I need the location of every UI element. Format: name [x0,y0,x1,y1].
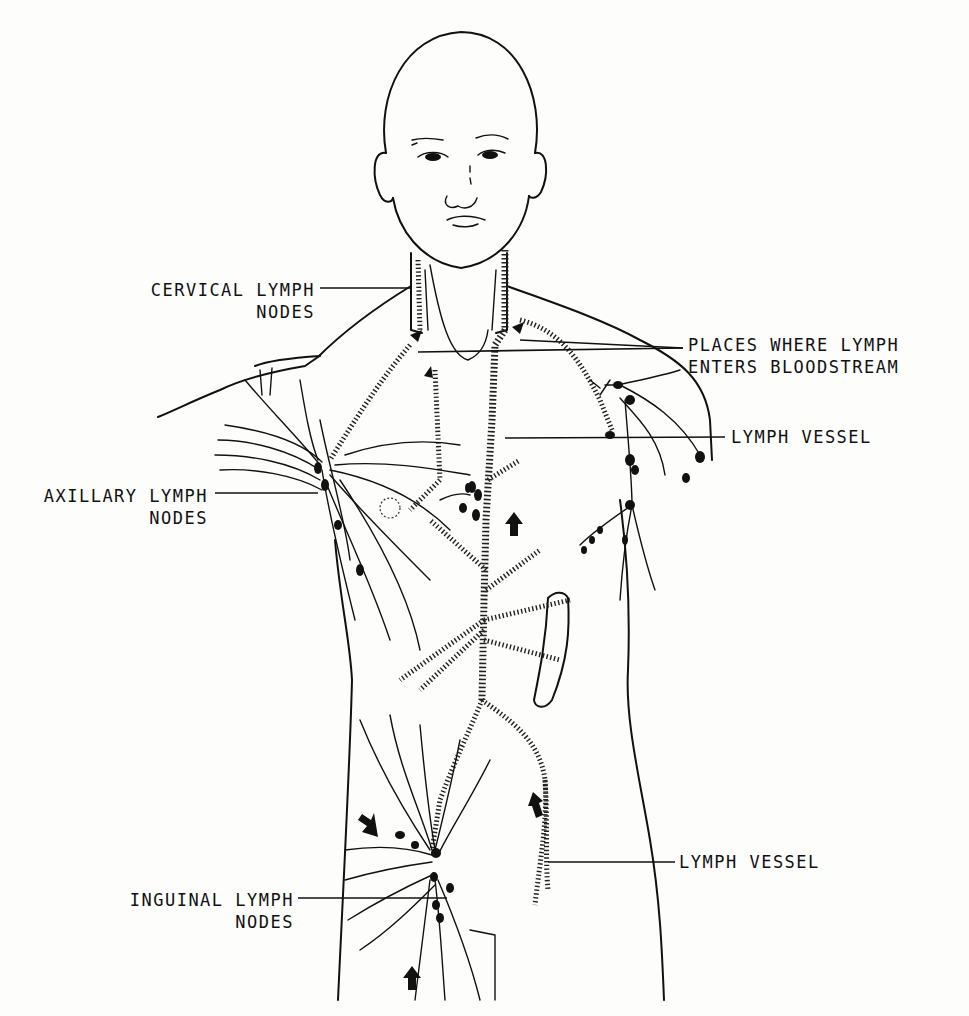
label-line: INGUINAL LYMPH [100,889,294,911]
arrow-up-icon [505,512,523,536]
arrow-up-icon [424,366,433,378]
neck [411,253,507,360]
leader-lines [215,288,725,898]
label-places-where-lymph-enters-bloodstream: PLACES WHERE LYMPH ENTERS BLOODSTREAM [688,334,899,378]
label-line: PLACES WHERE LYMPH [688,334,899,356]
label-axillary-lymph-nodes: AXILLARY LYMPH NODES [10,485,208,529]
label-line: LYMPH VESSEL [679,851,820,873]
label-line: NODES [10,507,208,529]
label-line: AXILLARY LYMPH [10,485,208,507]
chest-nodes [440,481,482,521]
thoracic-duct [330,250,612,905]
head [375,32,547,268]
label-cervical-lymph-nodes: CERVICAL LYMPH NODES [110,279,315,323]
label-line: LYMPH VESSEL [731,426,872,448]
label-line: NODES [110,301,315,323]
label-line: ENTERS BLOODSTREAM [688,356,899,378]
arrow-up-icon [528,792,543,818]
label-inguinal-lymph-nodes: INGUINAL LYMPH NODES [100,889,294,933]
label-line: NODES [100,911,294,933]
arrow-down-right-icon [358,813,378,837]
arrow-down-left-icon [512,322,524,334]
label-lymph-vessel-lower: LYMPH VESSEL [679,851,820,873]
label-line: CERVICAL LYMPH [110,279,315,301]
right-axillary-branches [580,370,705,600]
label-lymph-vessel-upper: LYMPH VESSEL [731,426,872,448]
colon-segment [534,593,569,707]
inguinal-branches [345,715,490,1000]
